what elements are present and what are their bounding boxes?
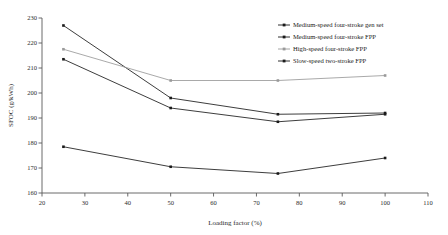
legend-label-3: Slow-speed two-stroke FPP xyxy=(293,57,367,64)
legend-label-1: Medium-speed four-stroke FPP xyxy=(293,33,376,40)
x-tick-label-100: 100 xyxy=(380,199,390,206)
legend-marker-0 xyxy=(283,24,286,27)
x-tick-label-80: 80 xyxy=(296,199,303,206)
x-tick-label-30: 30 xyxy=(82,199,89,206)
x-tick-label-90: 90 xyxy=(339,199,346,206)
series-3-point-1 xyxy=(169,165,172,168)
legend-label-2: High-speed four-stroke FPP xyxy=(293,45,367,52)
series-1-point-0 xyxy=(62,58,65,61)
y-tick-label-190: 190 xyxy=(27,114,37,121)
x-axis-title: Loading factor (%) xyxy=(208,219,262,227)
series-2-point-1 xyxy=(169,79,172,82)
y-tick-label-200: 200 xyxy=(27,89,37,96)
sfoc-vs-loading-factor-line-chart: 1601701801902002102202302030405060708090… xyxy=(0,0,448,235)
series-1-point-3 xyxy=(384,113,387,116)
y-axis-title: SFOC (g/kWh) xyxy=(7,83,15,127)
series-1-point-2 xyxy=(277,120,280,123)
x-tick-label-70: 70 xyxy=(253,199,260,206)
series-0-point-0 xyxy=(62,24,65,27)
x-tick-label-50: 50 xyxy=(167,199,174,206)
series-1-point-1 xyxy=(169,107,172,110)
series-line-2 xyxy=(63,49,385,80)
legend-marker-2 xyxy=(283,48,286,51)
legend-marker-1 xyxy=(283,36,286,39)
legend-marker-3 xyxy=(283,60,286,63)
series-3-point-0 xyxy=(62,145,65,148)
legend-label-0: Medium-speed four-stroke gen set xyxy=(293,21,384,28)
chart-container: 1601701801902002102202302030405060708090… xyxy=(0,0,448,235)
series-3-point-2 xyxy=(277,172,280,175)
series-0-point-2 xyxy=(277,113,280,116)
y-tick-label-220: 220 xyxy=(27,39,37,46)
series-line-1 xyxy=(63,59,385,122)
series-line-3 xyxy=(63,147,385,174)
series-3-point-3 xyxy=(384,157,387,160)
x-tick-label-40: 40 xyxy=(125,199,132,206)
y-tick-label-170: 170 xyxy=(27,164,37,171)
x-tick-label-60: 60 xyxy=(210,199,217,206)
series-2-point-3 xyxy=(384,74,387,77)
y-tick-label-210: 210 xyxy=(27,64,37,71)
series-0-point-1 xyxy=(169,97,172,100)
x-tick-label-110: 110 xyxy=(423,199,433,206)
y-tick-label-180: 180 xyxy=(27,139,37,146)
y-tick-label-160: 160 xyxy=(27,189,37,196)
series-2-point-2 xyxy=(277,79,280,82)
y-tick-label-230: 230 xyxy=(27,14,37,21)
x-tick-label-20: 20 xyxy=(39,199,46,206)
series-2-point-0 xyxy=(62,48,65,51)
